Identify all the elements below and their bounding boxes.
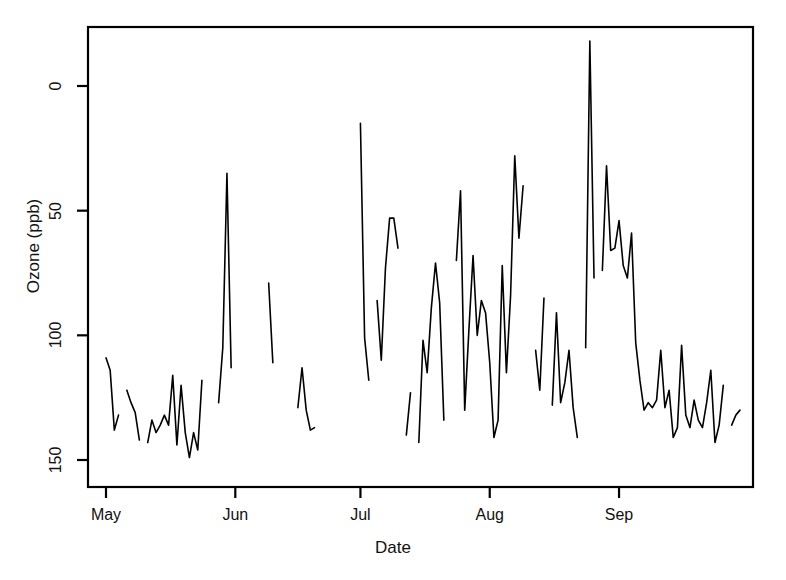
x-tick-label-may: May: [71, 506, 141, 524]
y-tick-label-100: 50: [47, 190, 65, 232]
x-tick-label-jul: Jul: [325, 506, 395, 524]
y-tick-label-0: 150: [47, 439, 65, 481]
y-axis-title: Ozone (ppb): [24, 166, 44, 326]
x-tick-label-jun: Jun: [200, 506, 270, 524]
plot-background: [0, 0, 786, 580]
y-tick-label-150: 0: [47, 65, 65, 107]
chart-figure: Daily Mean Ozone Concentration, New York…: [0, 0, 786, 580]
x-axis-title: Date: [0, 538, 786, 558]
x-tick-label-sep: Sep: [584, 506, 654, 524]
plot-area: [0, 0, 786, 580]
y-tick-label-50: 100: [47, 314, 65, 356]
x-tick-label-aug: Aug: [455, 506, 525, 524]
